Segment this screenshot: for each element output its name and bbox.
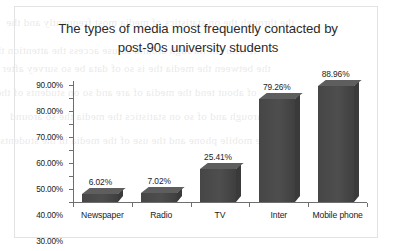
y-axis-tick: 30.00%: [69, 163, 73, 164]
x-axis-tick: [73, 203, 74, 207]
chart-title-line-1: The types of media most frequently conta…: [58, 21, 338, 36]
bar-value-label: 6.02%: [89, 177, 112, 187]
bar: 79.26%: [259, 99, 295, 202]
y-axis-tick: 70.00%: [69, 111, 73, 112]
x-axis-tick: [367, 203, 368, 207]
chart-container: The types of media most frequently conta…: [14, 6, 378, 238]
bar-front-face: [82, 194, 118, 202]
bar-front-face: [141, 193, 177, 202]
bar: 6.02%: [82, 194, 118, 202]
bar-side-face: [236, 163, 241, 202]
x-axis-tick: [132, 203, 133, 207]
bar-side-face: [354, 80, 359, 202]
chart-title: The types of media most frequently conta…: [35, 19, 361, 57]
x-axis-tick: [308, 203, 309, 207]
bar-front-face: [259, 99, 295, 202]
bar-value-label: 7.02%: [148, 176, 171, 186]
y-axis-tick-label: 40.00%: [36, 211, 63, 220]
y-axis-tick-label: 30.00%: [36, 237, 63, 246]
bar: 7.02%: [141, 193, 177, 202]
x-axis-category-label: Newspaper: [71, 210, 133, 221]
bar-front-face: [318, 86, 354, 202]
y-axis-line: [73, 81, 74, 203]
x-axis-tick: [191, 203, 192, 207]
bar-front-face: [200, 169, 236, 202]
bar-side-face: [295, 93, 300, 202]
y-axis-tick-label: 80.00%: [36, 107, 63, 116]
bar: 88.96%: [318, 86, 354, 202]
bar-value-label: 25.41%: [204, 152, 232, 162]
x-axis-tick: [249, 203, 250, 207]
bar-value-label: 79.26%: [263, 82, 291, 92]
bar: 25.41%: [200, 169, 236, 202]
y-axis-tick: 90.00%: [69, 85, 73, 86]
y-axis-tick-label: 90.00%: [36, 81, 63, 90]
x-axis-category-label: Inter: [248, 210, 310, 221]
plot-area: 0.00%10.00%20.00%30.00%40.00%50.00%60.00…: [73, 85, 369, 203]
y-axis-tick: 50.00%: [69, 137, 73, 138]
x-axis-category-label: Radio: [130, 210, 192, 221]
y-axis-tick: 20.00%: [69, 176, 73, 177]
y-axis-tick: 60.00%: [69, 124, 73, 125]
y-axis-tick-label: 50.00%: [36, 185, 63, 194]
y-axis-tick: 40.00%: [69, 150, 73, 151]
y-axis-tick-label: 70.00%: [36, 133, 63, 142]
y-axis-tick: 10.00%: [69, 189, 73, 190]
bar-value-label: 88.96%: [322, 69, 350, 79]
x-axis-category-label: TV: [189, 210, 251, 221]
y-axis-tick-label: 60.00%: [36, 159, 63, 168]
x-axis-category-label: Mobile phone: [307, 210, 369, 221]
y-axis-tick: 80.00%: [69, 98, 73, 99]
chart-title-line-2: post-90s university students: [118, 40, 279, 55]
